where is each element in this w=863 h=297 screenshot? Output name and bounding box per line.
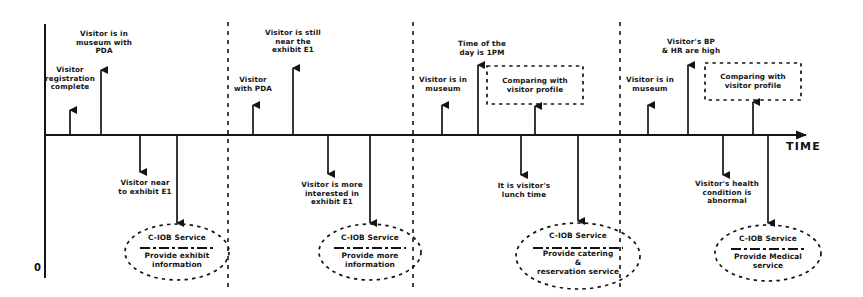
section-2-group [253, 68, 421, 280]
profile-compare-box-3 [487, 66, 583, 104]
time-axis-label: TIME [786, 140, 821, 153]
service-ellipse-1 [125, 224, 229, 280]
section-separators-group [228, 22, 620, 290]
section-3-group [442, 65, 640, 289]
section-4-group [648, 63, 821, 281]
service-ellipse-2 [319, 224, 421, 280]
origin-label: 0 [34, 262, 41, 273]
axes-group [45, 24, 806, 278]
profile-compare-box-4 [705, 63, 801, 100]
timeline-diagram-canvas [0, 0, 863, 297]
section-1-group [70, 70, 229, 280]
service-ellipse-3 [516, 223, 640, 289]
service-ellipse-4 [715, 225, 821, 281]
